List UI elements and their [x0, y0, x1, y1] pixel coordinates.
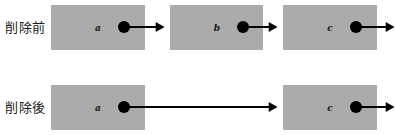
arrow-a-to-b-before [124, 23, 164, 32]
arrow-layer [0, 0, 396, 135]
arrow-c-to-next-before [356, 23, 394, 32]
arrow-a-to-c-after [124, 103, 277, 112]
linked-list-deletion-diagram: 削除前 a b c 削除後 a c [0, 0, 396, 135]
arrow-b-to-c-before [243, 23, 277, 32]
arrow-c-to-next-after [356, 103, 394, 112]
